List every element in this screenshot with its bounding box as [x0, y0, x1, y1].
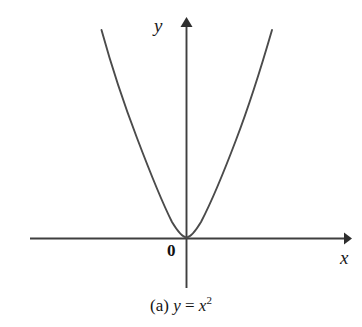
plot-area: y x 0 [0, 0, 362, 295]
caption-index: (a) [150, 296, 169, 315]
figure-caption: (a) y = x2 [0, 296, 362, 316]
graph-svg [0, 0, 362, 295]
y-axis-arrowhead-icon [181, 17, 193, 27]
caption-rhs-exponent: 2 [206, 294, 212, 306]
caption-lhs: y [173, 296, 181, 315]
x-axis-label: x [340, 248, 348, 267]
origin-label: 0 [167, 242, 176, 259]
caption-equals-sign: = [185, 296, 195, 315]
figure-container: y x 0 (a) y = x2 [0, 0, 362, 327]
y-axis-label: y [154, 16, 162, 35]
x-axis-arrowhead-icon [344, 233, 352, 245]
